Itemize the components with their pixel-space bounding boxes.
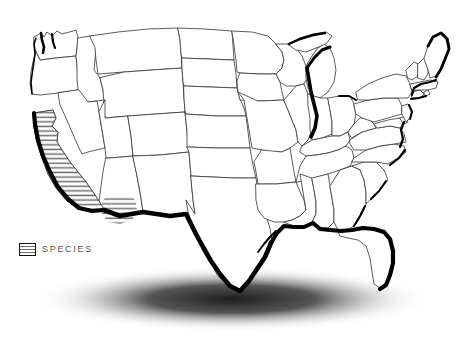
state-wyoming	[100, 68, 185, 118]
state-new-york	[356, 74, 412, 100]
state-minnesota	[232, 31, 284, 74]
state-kansas	[185, 112, 250, 148]
us-map-svg	[0, 0, 465, 341]
state-oregon	[30, 52, 79, 95]
legend-label-species: SPECIES	[42, 245, 93, 254]
map-figure: SPECIES	[0, 0, 465, 341]
state-vermont	[406, 62, 418, 80]
state-colorado	[128, 112, 189, 156]
state-georgia	[330, 166, 366, 230]
state-new-mexico	[133, 152, 195, 216]
state-oklahoma	[187, 147, 256, 178]
state-arkansas	[254, 148, 296, 184]
state-louisiana	[256, 182, 306, 222]
map-legend: SPECIES	[19, 243, 93, 256]
us-states-layer	[30, 28, 450, 290]
species-hatch-swatch-icon	[19, 243, 36, 256]
state-south-dakota	[182, 58, 237, 88]
state-montana	[90, 28, 182, 74]
state-rhode-island	[424, 90, 430, 96]
state-north-dakota	[178, 28, 234, 60]
state-nebraska	[184, 86, 246, 116]
